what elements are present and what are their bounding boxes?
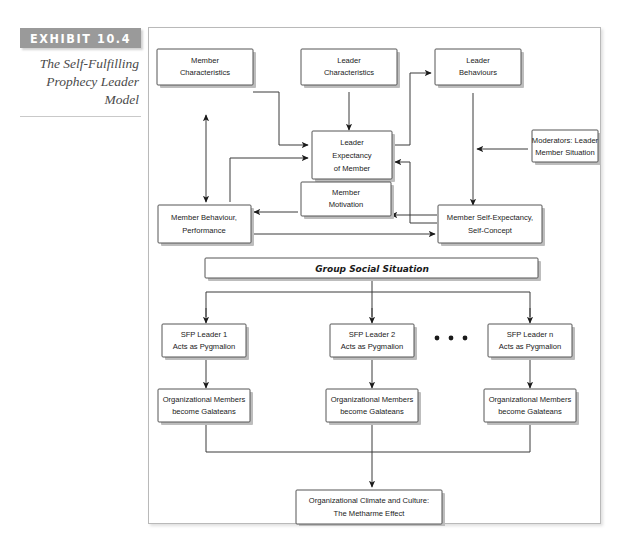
box-org-members-1: Organizational Members become Galateans bbox=[158, 389, 253, 425]
box-leader-expectancy-line-1: Leader bbox=[340, 138, 364, 147]
box-member-behaviour: Member Behaviour, Performance bbox=[158, 205, 254, 246]
flowchart: Member Characteristics Leader Characteri… bbox=[148, 27, 603, 526]
box-org-members-2-line-2: become Galateans bbox=[340, 407, 404, 416]
exhibit-page: EXHIBIT 10.4 The Self-Fulfilling Prophec… bbox=[0, 0, 624, 545]
box-org-members-1-line-1: Organizational Members bbox=[163, 395, 246, 404]
box-sfp-leader-n-line-1: SFP Leader n bbox=[507, 330, 554, 339]
box-member-characteristics: Member Characteristics bbox=[157, 49, 256, 88]
box-sfp-leader-1-line-1: SFP Leader 1 bbox=[181, 330, 228, 339]
box-member-motivation-line-2: Motivation bbox=[329, 200, 364, 209]
box-moderators-line-1: Moderators: Leader bbox=[532, 136, 599, 145]
exhibit-title-line-2: Prophecy Leader bbox=[20, 73, 139, 91]
box-sfp-leader-1: SFP Leader 1 Acts as Pygmalion bbox=[162, 324, 249, 360]
box-member-characteristics-line-2: Characteristics bbox=[180, 68, 230, 77]
box-member-motivation-line-1: Member bbox=[332, 188, 360, 197]
box-org-members-2-line-1: Organizational Members bbox=[331, 395, 414, 404]
box-sfp-leader-2-line-1: SFP Leader 2 bbox=[349, 330, 396, 339]
box-org-members-1-line-2: become Galateans bbox=[172, 407, 236, 416]
box-leader-characteristics: Leader Characteristics bbox=[301, 49, 400, 88]
box-org-members-n: Organizational Members become Galateans bbox=[484, 389, 579, 425]
box-member-behaviour-line-1: Member Behaviour, bbox=[171, 213, 237, 222]
box-member-characteristics-line-1: Member bbox=[191, 56, 219, 65]
box-member-behaviour-line-2: Performance bbox=[182, 226, 225, 235]
exhibit-number-label: EXHIBIT 10.4 bbox=[30, 31, 131, 46]
box-org-climate-line-2: The Metharme Effect bbox=[334, 509, 406, 518]
box-sfp-leader-n-line-2: Acts as Pygmalion bbox=[499, 342, 561, 351]
edge-memberchar-to-expectancy bbox=[253, 92, 308, 145]
box-member-self-expectancy: Member Self-Expectancy, Self-Concept bbox=[438, 205, 545, 246]
box-org-members-n-line-2: become Galateans bbox=[498, 407, 562, 416]
edge-memberbehaviour-to-expectancy bbox=[230, 158, 308, 202]
exhibit-title-line-3: Model bbox=[20, 91, 139, 109]
caption-divider bbox=[20, 116, 141, 117]
box-sfp-leader-1-line-2: Acts as Pygmalion bbox=[173, 342, 235, 351]
box-leader-characteristics-line-1: Leader bbox=[337, 56, 361, 65]
box-moderators-line-2: Member Situation bbox=[535, 148, 595, 157]
box-leader-behaviours-line-1: Leader bbox=[466, 56, 490, 65]
box-moderators: Moderators: Leader Member Situation bbox=[532, 130, 601, 165]
box-leader-expectancy-line-2: Expectancy bbox=[332, 151, 371, 160]
box-leader-behaviours: Leader Behaviours bbox=[435, 49, 524, 88]
box-group-social-situation: Group Social Situation bbox=[205, 258, 541, 281]
box-sfp-leader-2: SFP Leader 2 Acts as Pygmalion bbox=[330, 324, 417, 360]
box-leader-characteristics-line-2: Characteristics bbox=[324, 68, 374, 77]
box-member-self-expectancy-line-2: Self-Concept bbox=[468, 226, 513, 235]
box-org-climate-line-1: Organizational Climate and Culture: bbox=[309, 496, 429, 505]
edge-orgmembers-merge-bus bbox=[206, 423, 530, 452]
box-leader-expectancy-line-3: of Member bbox=[334, 164, 371, 173]
edge-groupsocial-distribution-bus bbox=[206, 278, 530, 317]
exhibit-title-line-1: The Self-Fulfilling bbox=[20, 55, 139, 73]
exhibit-number-bar: EXHIBIT 10.4 bbox=[20, 28, 141, 48]
edge-selfexpectancy-to-expectancy bbox=[395, 162, 437, 223]
box-org-climate: Organizational Climate and Culture: The … bbox=[296, 490, 445, 526]
box-leader-behaviours-line-2: Behaviours bbox=[459, 68, 497, 77]
box-sfp-leader-2-line-2: Acts as Pygmalion bbox=[341, 342, 403, 351]
box-org-members-2: Organizational Members become Galateans bbox=[326, 389, 421, 425]
box-member-self-expectancy-line-1: Member Self-Expectancy, bbox=[447, 213, 533, 222]
box-member-motivation: Member Motivation bbox=[301, 182, 394, 219]
ellipsis-icon bbox=[435, 336, 468, 341]
exhibit-caption-block: EXHIBIT 10.4 The Self-Fulfilling Prophec… bbox=[20, 28, 141, 117]
box-leader-expectancy: Leader Expectancy of Member bbox=[312, 131, 395, 182]
exhibit-title: The Self-Fulfilling Prophecy Leader Mode… bbox=[20, 55, 141, 116]
box-group-social-situation-label: Group Social Situation bbox=[315, 264, 429, 274]
box-sfp-leader-n: SFP Leader n Acts as Pygmalion bbox=[488, 324, 575, 360]
box-org-members-n-line-1: Organizational Members bbox=[489, 395, 572, 404]
